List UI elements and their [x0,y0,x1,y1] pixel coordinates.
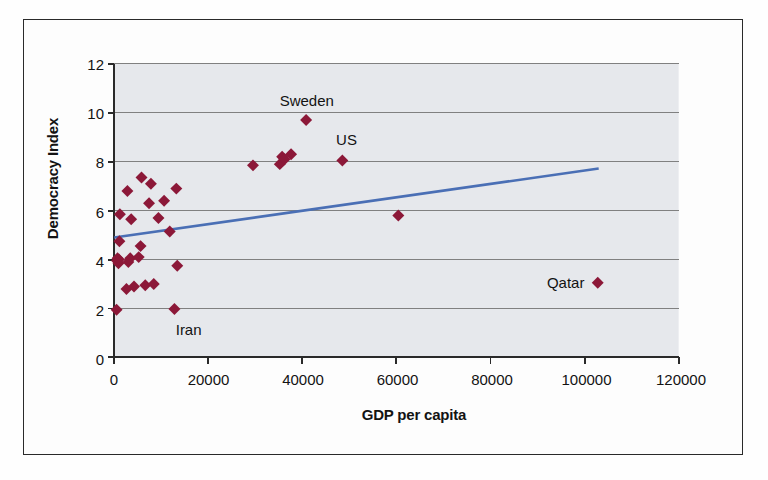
y-tick-label: 10 [56,105,104,122]
y-tick-label: 12 [56,56,104,73]
y-tick-label: 8 [56,154,104,171]
page-root: 024681012 020000400006000080000100000120… [0,0,768,480]
y-tick-label: 4 [56,252,104,269]
x-tick-label: 20000 [188,371,230,388]
x-tick-label: 80000 [471,371,513,388]
chart-figure-frame: 024681012 020000400006000080000100000120… [23,19,743,455]
x-tick-label: 120000 [656,371,706,388]
y-tick-label: 0 [56,351,104,368]
y-axis-title: Democracy Index [44,89,61,269]
scatter-chart-canvas [24,20,742,454]
point-label-iran: Iran [176,321,202,338]
x-tick-label: 40000 [282,371,324,388]
point-label-qatar: Qatar [547,274,585,291]
point-label-us: US [336,131,357,148]
x-axis-title: GDP per capita [114,406,714,423]
point-label-sweden: Sweden [280,92,334,109]
y-tick-label: 6 [56,203,104,220]
x-tick-label: 60000 [377,371,419,388]
x-tick-label: 0 [110,371,118,388]
x-tick-label: 100000 [561,371,611,388]
y-tick-label: 2 [56,301,104,318]
